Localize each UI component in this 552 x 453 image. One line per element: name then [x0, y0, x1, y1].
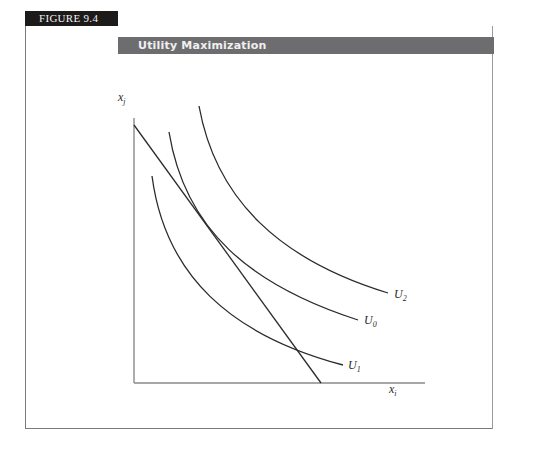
u0-label: U0 [364, 313, 377, 329]
u2-label: U2 [394, 287, 407, 303]
u1-label: U1 [348, 358, 361, 374]
indifference-curve-u1 [152, 176, 343, 365]
x-axis-label: xi [388, 382, 397, 398]
indifference-curve-u2 [199, 106, 388, 293]
utility-maximization-chart: xj xi U2 U0 U1 [0, 0, 552, 453]
y-axis-label: xj [117, 90, 126, 106]
budget-line [134, 125, 321, 383]
